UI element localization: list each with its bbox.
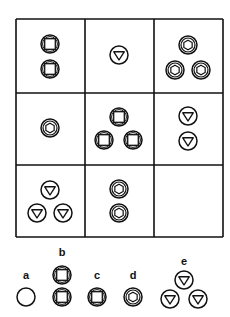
option-c[interactable] [88,288,106,306]
hexagon-icon [110,204,128,222]
option-e[interactable] [161,271,207,308]
square-icon [124,131,142,149]
grid-cell-r1-c2 [179,107,197,150]
grid-cell-r0-c2 [166,36,210,79]
triangle-icon [175,271,193,289]
grid-cell-r1-c0 [41,119,59,137]
hexagon-icon [41,119,59,137]
triangle-icon [161,290,179,308]
triangle-icon [110,46,128,64]
option-b[interactable] [53,266,71,306]
grid-cell-r0-c1 [110,46,128,64]
option-label-d: d [130,270,137,281]
triangle-icon [189,290,207,308]
hexagon-icon [110,180,128,198]
triangle-icon [179,132,197,150]
triangle-icon [28,204,46,222]
triangle-icon [54,204,72,222]
option-label-c: c [94,270,100,281]
grid-cell-r2-c0 [28,181,72,222]
square-icon [53,288,71,306]
option-a[interactable] [17,288,35,306]
hexagon-icon [124,288,142,306]
square-icon [41,60,59,78]
square-icon [53,266,71,284]
grid-cell-r2-c1 [110,180,128,222]
hexagon-icon [192,61,210,79]
hexagon-icon [179,36,197,54]
square-icon [88,288,106,306]
square-icon [95,131,113,149]
grid-cell-r1-c1 [95,108,142,149]
square-icon [41,35,59,53]
circle-icon [17,288,35,306]
option-label-e: e [181,256,187,267]
option-d[interactable] [124,288,142,306]
puzzle-board [0,0,230,317]
grid-cell-r0-c0 [41,35,59,78]
option-label-a: a [23,270,29,281]
option-label-b: b [59,247,66,258]
triangle-icon [179,107,197,125]
hexagon-icon [166,61,184,79]
triangle-icon [41,181,59,199]
square-icon [110,108,128,126]
